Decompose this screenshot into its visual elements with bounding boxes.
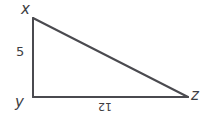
vertex-label-y: y <box>15 95 24 110</box>
vertex-label-x: x <box>21 2 30 17</box>
side-length-label-yz: 12 <box>98 101 112 112</box>
vertex-label-z: z <box>191 88 199 103</box>
triangle-diagram-canvas: x y z 5 12 <box>0 0 214 124</box>
triangle-side-xz-hypotenuse <box>33 18 188 97</box>
side-length-label-xy: 5 <box>16 45 24 58</box>
